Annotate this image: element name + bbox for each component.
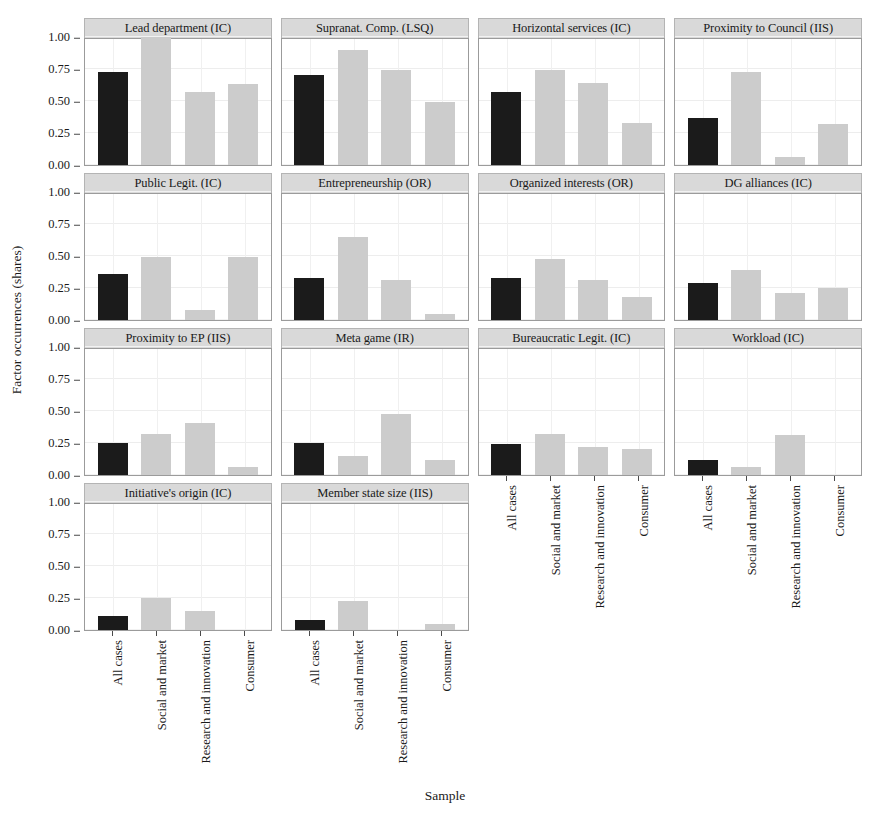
y-tick-label: 0.50 — [48, 95, 80, 108]
gridline-horizontal — [85, 191, 271, 192]
bar — [578, 83, 608, 165]
bar — [425, 460, 455, 475]
bar — [185, 310, 215, 320]
bar — [98, 443, 128, 475]
x-tick-mark — [156, 631, 157, 636]
x-axis-ticks: All casesSocial and marketResearch and i… — [478, 476, 666, 626]
facet-plot-area — [478, 193, 666, 321]
facet-panel: DG alliances (IC) — [674, 173, 862, 321]
bar — [731, 270, 761, 320]
bar-series — [85, 504, 271, 630]
x-tick-mark — [550, 476, 551, 481]
bar — [688, 283, 718, 320]
bar — [425, 624, 455, 630]
bar — [98, 274, 128, 320]
bar — [294, 443, 324, 475]
facet-strip-label: Horizontal services (IC) — [478, 18, 666, 38]
bar — [98, 616, 128, 630]
y-axis-ticks: 0.000.250.500.751.00 — [0, 37, 80, 165]
bar-series — [479, 39, 665, 165]
bar — [338, 601, 368, 630]
facet-plot-area — [281, 193, 469, 321]
y-tick-label: 1.00 — [48, 341, 80, 354]
bar-series — [85, 194, 271, 320]
x-tick-label: Research and innovation — [200, 640, 213, 764]
bar — [731, 72, 761, 165]
y-tick-label: 0.25 — [48, 437, 80, 450]
bar — [535, 434, 565, 475]
y-axis-ticks: 0.000.250.500.751.00 — [0, 347, 80, 475]
y-tick-label: 0.75 — [48, 63, 80, 76]
bar — [294, 75, 324, 165]
facet-strip-label: DG alliances (IC) — [674, 173, 862, 193]
y-tick-label: 0.00 — [48, 314, 80, 327]
y-tick-label: 0.00 — [48, 159, 80, 172]
bar — [818, 124, 848, 165]
y-tick-label: 0.50 — [48, 560, 80, 573]
x-tick-mark — [638, 476, 639, 481]
facet-panel: Supranat. Comp. (LSQ) — [281, 18, 469, 166]
facet-strip-label: Entrepreneurship (OR) — [281, 173, 469, 193]
y-axis-ticks: 0.000.250.500.751.00 — [0, 192, 80, 320]
y-tick-label: 0.25 — [48, 282, 80, 295]
facet-panel: Member state size (IIS)All casesSocial a… — [281, 483, 469, 631]
y-tick-label: 0.25 — [48, 592, 80, 605]
bar — [338, 237, 368, 320]
bar — [688, 118, 718, 165]
x-tick-mark — [594, 476, 595, 481]
facet-panel: Initiative's origin (IC)0.000.250.500.75… — [84, 483, 272, 631]
facet-panel: Proximity to EP (IIS)0.000.250.500.751.0… — [84, 328, 272, 476]
facet-plot-area — [281, 38, 469, 166]
bar — [381, 70, 411, 165]
y-tick-label: 0.75 — [48, 218, 80, 231]
facet-plot-area — [674, 38, 862, 166]
facet-strip-label: Proximity to EP (IIS) — [84, 328, 272, 348]
gridline-horizontal — [675, 346, 861, 347]
gridline-horizontal — [282, 36, 468, 37]
bar — [491, 444, 521, 475]
facet-panel: Lead department (IC)0.000.250.500.751.00 — [84, 18, 272, 166]
facet-strip-label: Supranat. Comp. (LSQ) — [281, 18, 469, 38]
x-tick-mark — [702, 476, 703, 481]
bar — [622, 449, 652, 475]
bar — [141, 434, 171, 475]
facet-panel: Organized interests (OR) — [478, 173, 666, 321]
x-tick-mark — [353, 631, 354, 636]
bar — [578, 280, 608, 320]
y-tick-label: 1.00 — [48, 496, 80, 509]
facet-plot-area — [84, 503, 272, 631]
gridline-horizontal — [282, 346, 468, 347]
bar-series — [675, 349, 861, 475]
facet-strip-label: Public Legit. (IC) — [84, 173, 272, 193]
x-tick-mark — [790, 476, 791, 481]
facet-plot-area — [84, 38, 272, 166]
facet-panel: Entrepreneurship (OR) — [281, 173, 469, 321]
facet-strip-label: Workload (IC) — [674, 328, 862, 348]
x-axis-ticks: All casesSocial and marketResearch and i… — [281, 631, 469, 781]
x-tick-mark — [506, 476, 507, 481]
facet-panel: Public Legit. (IC)0.000.250.500.751.00 — [84, 173, 272, 321]
facet-plot-area — [478, 348, 666, 476]
bar-series — [85, 39, 271, 165]
x-tick-mark — [441, 631, 442, 636]
x-axis-ticks: All casesSocial and marketResearch and i… — [84, 631, 272, 781]
bar-series — [675, 194, 861, 320]
x-axis-ticks: All casesSocial and marketResearch and i… — [674, 476, 862, 626]
x-tick-mark — [834, 476, 835, 481]
facet-panel: Workload (IC)All casesSocial and marketR… — [674, 328, 862, 476]
facet-row: Proximity to EP (IIS)0.000.250.500.751.0… — [84, 328, 862, 476]
bar — [491, 278, 521, 320]
facet-strip-label: Member state size (IIS) — [281, 483, 469, 503]
facet-plot-area — [281, 503, 469, 631]
facet-strip-label: Meta game (IR) — [281, 328, 469, 348]
y-tick-label: 1.00 — [48, 186, 80, 199]
y-tick-label: 0.25 — [48, 127, 80, 140]
facet-panel: Proximity to Council (IIS) — [674, 18, 862, 166]
x-tick-label: Research and innovation — [790, 485, 803, 609]
bar — [338, 456, 368, 475]
bar-series — [479, 194, 665, 320]
gridline-horizontal — [282, 191, 468, 192]
x-tick-label: All cases — [506, 485, 519, 530]
gridline-horizontal — [85, 346, 271, 347]
facet-plot-area — [478, 38, 666, 166]
